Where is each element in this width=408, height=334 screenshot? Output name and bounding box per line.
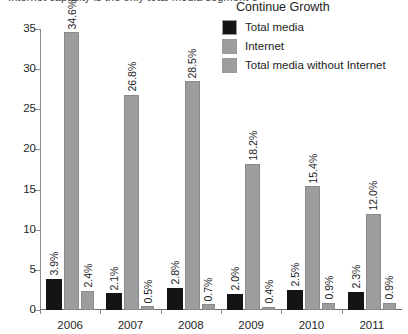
bar-value-label: 2.5% <box>290 263 301 287</box>
y-axis-tick-label: 5 <box>10 263 36 275</box>
y-axis-tick-label: 0 <box>10 303 36 315</box>
x-axis-category-label: 2006 <box>40 319 100 331</box>
bar-2010-series-3[interactable] <box>322 303 335 310</box>
y-axis-tick-label: 30 <box>10 62 36 74</box>
bar-value-label: 15.4% <box>307 154 318 184</box>
bar-2006-series-2[interactable] <box>64 32 79 310</box>
bar-2009-series-1[interactable] <box>227 294 243 310</box>
bar-group-2008: 2.8%28.5%0.7%2008 <box>161 29 221 310</box>
x-axis-tick <box>40 310 41 314</box>
x-axis-category-label: 2011 <box>342 319 402 331</box>
y-axis-tick-label: 25 <box>10 102 36 114</box>
bar-group-2006: 3.9%34.6%2.4%2006 <box>40 29 100 310</box>
bar-2011-series-1[interactable] <box>348 292 364 310</box>
bar-value-label: 2.3% <box>350 265 361 289</box>
bar-value-label: 26.8% <box>126 62 137 92</box>
bar-value-label: 0.9% <box>323 276 334 300</box>
legend-title: Continue Growth <box>236 0 408 14</box>
bar-2011-series-3[interactable] <box>383 303 396 310</box>
bar-2010-series-1[interactable] <box>287 290 303 310</box>
x-axis-tick <box>342 310 343 314</box>
y-axis-tick-label: 20 <box>10 142 36 154</box>
bar-2007-series-2[interactable] <box>124 95 139 310</box>
bar-2006-series-3[interactable] <box>81 291 94 310</box>
bar-group-2010: 2.5%15.4%0.9%2010 <box>281 29 341 310</box>
bar-group-2007: 2.1%26.8%0.5%2007 <box>100 29 160 310</box>
bar-value-label: 34.6% <box>66 0 77 29</box>
bar-group-2011: 2.3%12.0%0.9%2011 <box>342 29 402 310</box>
x-axis-category-label: 2008 <box>161 319 221 331</box>
x-axis-tick <box>161 310 162 314</box>
bar-2009-series-2[interactable] <box>245 164 260 310</box>
bar-value-label: 0.5% <box>142 279 153 303</box>
x-axis-tick <box>221 310 222 314</box>
y-axis-tick-label: 15 <box>10 183 36 195</box>
bar-value-label: 2.8% <box>169 261 180 285</box>
bar-2011-series-2[interactable] <box>366 214 381 310</box>
bar-value-label: 12.0% <box>368 181 379 211</box>
bar-value-label: 2.4% <box>82 264 93 288</box>
bar-value-label: 0.7% <box>203 277 214 301</box>
y-axis-tick-label: 35 <box>10 22 36 34</box>
bar-value-label: 2.1% <box>109 266 120 290</box>
plot-area: 05101520253035 3.9%34.6%2.4%20062.1%26.8… <box>40 29 408 310</box>
bar-2006-series-1[interactable] <box>46 279 62 310</box>
bar-2010-series-2[interactable] <box>305 186 320 310</box>
bar-value-label: 28.5% <box>187 48 198 78</box>
bar-2008-series-2[interactable] <box>185 81 200 310</box>
bar-value-label: 2.0% <box>230 267 241 291</box>
bar-2007-series-3[interactable] <box>141 306 154 310</box>
bar-2007-series-1[interactable] <box>106 293 122 310</box>
chart-title-clipped: Internet capacity is the only total medi… <box>8 0 258 3</box>
x-axis-category-label: 2007 <box>100 319 160 331</box>
bar-value-label: 0.4% <box>263 280 274 304</box>
bar-value-label: 0.9% <box>384 276 395 300</box>
x-axis-category-label: 2009 <box>221 319 281 331</box>
x-axis-tick <box>100 310 101 314</box>
bar-2008-series-3[interactable] <box>202 304 215 310</box>
chart-canvas: Internet capacity is the only total medi… <box>0 0 408 334</box>
bar-group-2009: 2.0%18.2%0.4%2009 <box>221 29 281 310</box>
bar-2009-series-3[interactable] <box>262 307 275 310</box>
x-axis-category-label: 2010 <box>281 319 341 331</box>
y-axis-tick-label: 10 <box>10 223 36 235</box>
bar-2008-series-1[interactable] <box>167 288 183 310</box>
bar-value-label: 3.9% <box>49 252 60 276</box>
bar-value-label: 18.2% <box>247 131 258 161</box>
x-axis-tick <box>281 310 282 314</box>
